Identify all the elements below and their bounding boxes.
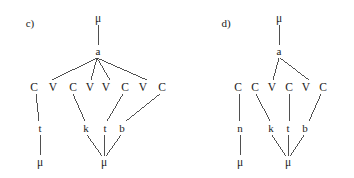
panel-c-node-mu-bottom-2: μ: [101, 157, 107, 168]
panel-d-edge-b-mu: [290, 135, 304, 156]
panel-d-edge-a-v1: [273, 58, 279, 80]
panel-d-node-skeleton-v2: V: [302, 82, 310, 93]
panel-c-node-seg-t1: t: [38, 123, 41, 134]
panel-d-node-seg-b: b: [302, 123, 308, 134]
panel-c-node-skeleton-v3: V: [102, 82, 110, 93]
panel-d-edge-c4-b: [309, 94, 321, 121]
panel-d-node-mu-top: μ: [276, 13, 282, 24]
panel-d-node-seg-k: k: [268, 123, 274, 134]
panel-c-node-skeleton-v1: V: [49, 82, 57, 93]
panel-c-node-seg-b: b: [119, 123, 125, 134]
panel-d-node-seg-t: t: [286, 123, 289, 134]
panel-d-edge-c2-k: [256, 94, 270, 121]
panel-c-edge-c4-b: [126, 94, 160, 121]
panel-d-edge-c1-n: [239, 94, 240, 121]
panel-d-node-skeleton-c4: C: [319, 82, 327, 93]
panel-label-d: d): [221, 18, 230, 29]
panel-c-node-skeleton-c1: C: [30, 82, 38, 93]
panel-d-node-mu-bottom-1: μ: [237, 157, 243, 168]
panel-d-edge-k-mu: [272, 135, 286, 156]
panel-d-node-seg-n: n: [237, 123, 243, 134]
panel-c-edge-c3-t2: [107, 94, 123, 121]
panel-c-edge-c1-t1: [36, 94, 39, 121]
panel-c-node-a-root: a: [96, 46, 101, 57]
panel-label-c: c): [26, 18, 35, 29]
panel-c-node-skeleton-v4: V: [139, 82, 147, 93]
panel-d-edge-c3-t: [289, 94, 290, 121]
panel-c-node-skeleton-v2: V: [86, 82, 94, 93]
panel-c-edge-b-mu: [106, 135, 121, 156]
panel-c-node-skeleton-c3: C: [121, 82, 129, 93]
panel-c-node-seg-k: k: [83, 123, 89, 134]
panel-d-node-skeleton-c1: C: [234, 82, 242, 93]
panel-c-node-mu-bottom-1: μ: [37, 157, 43, 168]
panel-c-edge-a-v2: [91, 58, 97, 80]
panel-d-node-skeleton-v1: V: [268, 82, 276, 93]
figure-canvas: c)μaCVCVVCVCtktbμμd)μaCCVCVCnktbμμ: [0, 0, 354, 178]
panel-c-node-seg-t2: t: [103, 123, 106, 134]
panel-c-node-skeleton-c4: C: [158, 82, 166, 93]
panel-d-node-skeleton-c3: C: [285, 82, 293, 93]
panel-d-edge-a-v2: [280, 58, 309, 80]
panel-d-node-mu-bottom-2: μ: [285, 157, 291, 168]
panel-c-edge-a-v1: [52, 58, 97, 80]
panel-c-edge-c2-k: [73, 94, 85, 121]
panel-d-node-a-root: a: [277, 46, 282, 57]
panel-c-node-mu-top: μ: [95, 13, 101, 24]
panel-c-edge-k-mu: [87, 135, 102, 156]
panel-c-edge-t2-mu: [104, 135, 105, 156]
panel-c-edge-a-v4: [97, 58, 147, 80]
panel-c-node-skeleton-c2: C: [69, 82, 77, 93]
panel-d-node-skeleton-c2: C: [251, 82, 259, 93]
